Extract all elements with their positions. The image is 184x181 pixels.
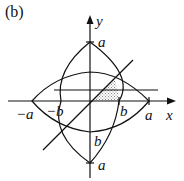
label-x-neg-a: −a — [16, 106, 34, 122]
x-axis-arrow-icon — [167, 98, 176, 105]
label-y-a: a — [98, 34, 106, 50]
y-axis-label: y — [94, 13, 103, 29]
label-x-b: b — [120, 103, 128, 119]
label-x-a: a — [145, 107, 153, 123]
panel-label: (b) — [5, 3, 24, 21]
x-axis-label: x — [165, 107, 173, 123]
label-y-neg-a: a — [98, 157, 106, 173]
label-x-neg-b: −b — [46, 103, 64, 119]
lens-diagram: (b) y x a −a −b b a b a — [0, 0, 184, 181]
y-axis-arrow-icon — [87, 15, 94, 24]
label-y-neg-b: b — [94, 133, 102, 149]
